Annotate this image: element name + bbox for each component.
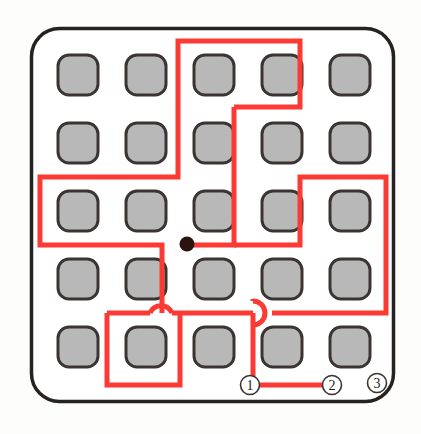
puzzle-figure: 1 2 3 bbox=[0, 0, 421, 434]
endpoint-marker-1-label: 1 bbox=[247, 378, 254, 393]
grid-cell[interactable] bbox=[330, 259, 370, 299]
grid-cell[interactable] bbox=[126, 123, 166, 163]
grid-cell[interactable] bbox=[262, 327, 302, 367]
grid-cell[interactable] bbox=[58, 191, 98, 231]
grid-cell[interactable] bbox=[194, 123, 234, 163]
grid-cell[interactable] bbox=[58, 259, 98, 299]
grid-cell[interactable] bbox=[262, 191, 302, 231]
grid-cell[interactable] bbox=[330, 55, 370, 95]
grid-cell[interactable] bbox=[330, 327, 370, 367]
center-dot-icon bbox=[180, 237, 195, 252]
grid-cell[interactable] bbox=[194, 327, 234, 367]
grid-cell[interactable] bbox=[262, 123, 302, 163]
grid-cell[interactable] bbox=[126, 327, 166, 367]
grid-cell[interactable] bbox=[194, 259, 234, 299]
grid-cell[interactable] bbox=[126, 55, 166, 95]
grid-cell[interactable] bbox=[194, 55, 234, 95]
grid-cell[interactable] bbox=[58, 327, 98, 367]
grid-cell[interactable] bbox=[126, 191, 166, 231]
endpoint-marker-3-label: 3 bbox=[374, 376, 381, 391]
grid-cell[interactable] bbox=[330, 123, 370, 163]
grid-cell[interactable] bbox=[262, 55, 302, 95]
grid-cell[interactable] bbox=[330, 191, 370, 231]
puzzle-canvas: 1 2 3 bbox=[0, 0, 421, 434]
grid-cell[interactable] bbox=[58, 123, 98, 163]
endpoint-marker-2-label: 2 bbox=[329, 378, 336, 393]
grid-cell[interactable] bbox=[194, 191, 234, 231]
grid-cell[interactable] bbox=[58, 55, 98, 95]
grid-cell[interactable] bbox=[262, 259, 302, 299]
